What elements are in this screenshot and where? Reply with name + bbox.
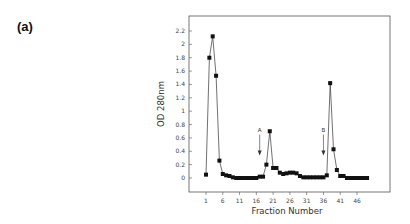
data-series (204, 34, 369, 180)
y-tick-label: 1.4 (175, 80, 185, 87)
y-axis-ticks: 00.20.40.60.811.21.41.61.822.2 (175, 27, 192, 181)
y-tick-label: 0.4 (175, 147, 185, 154)
data-point-marker (325, 173, 329, 177)
y-tick-label: 0.8 (175, 121, 185, 128)
data-point-marker (264, 163, 268, 167)
x-tick-label: 26 (286, 197, 294, 204)
x-tick-label: 46 (353, 197, 361, 204)
data-point-marker (328, 81, 332, 85)
y-axis-title: OD 280nm (156, 81, 166, 127)
x-tick-label: 1 (204, 197, 208, 204)
data-point-marker (214, 74, 218, 78)
arrowhead-icon (321, 151, 325, 156)
x-tick-label: 21 (269, 197, 277, 204)
x-tick-label: 36 (320, 197, 328, 204)
data-point-marker (274, 166, 278, 170)
x-tick-label: 11 (236, 197, 244, 204)
y-tick-label: 2.2 (175, 27, 185, 34)
data-point-marker (268, 129, 272, 133)
data-point-marker (211, 34, 215, 38)
arrowhead-icon (258, 151, 262, 156)
y-tick-label: 0 (181, 174, 185, 181)
x-axis-title: Fraction Number (252, 206, 323, 216)
x-axis-ticks: 161116212631364146 (204, 192, 361, 204)
data-point-marker (204, 173, 208, 177)
y-tick-label: 1 (181, 107, 185, 114)
data-point-marker (261, 175, 265, 179)
x-tick-label: 6 (221, 197, 225, 204)
x-tick-label: 41 (336, 197, 344, 204)
data-point-marker (207, 56, 211, 60)
annotation-label: A (258, 127, 262, 133)
data-point-marker (335, 168, 339, 172)
x-tick-label: 31 (303, 197, 311, 204)
data-point-marker (332, 147, 336, 151)
line-chart: 00.20.40.60.811.21.41.61.822.2 161116212… (0, 0, 410, 224)
y-tick-label: 1.8 (175, 54, 185, 61)
x-tick-label: 16 (253, 197, 261, 204)
y-tick-label: 1.2 (175, 94, 185, 101)
y-tick-label: 0.2 (175, 161, 185, 168)
data-point-marker (365, 176, 369, 180)
plot-frame (189, 16, 390, 192)
y-tick-label: 0.6 (175, 134, 185, 141)
annotation-label: B (322, 127, 326, 133)
y-tick-label: 2 (181, 40, 185, 47)
y-tick-label: 1.6 (175, 67, 185, 74)
data-point-marker (217, 159, 221, 163)
series-line (206, 36, 367, 178)
